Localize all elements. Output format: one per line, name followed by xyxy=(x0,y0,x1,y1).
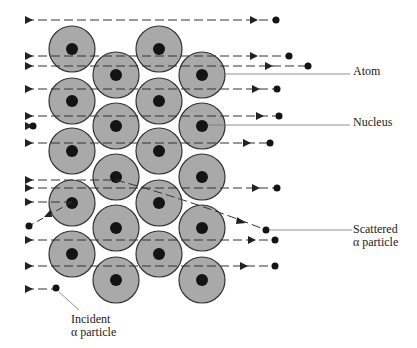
nucleus xyxy=(196,222,208,234)
arrowhead-icon xyxy=(265,62,273,70)
nucleus xyxy=(66,248,78,260)
atom-label: Atom xyxy=(353,64,380,78)
scattered-label-line2: α particle xyxy=(353,235,398,249)
alpha-particle xyxy=(267,140,274,147)
atom xyxy=(49,231,95,277)
incident-label-line1: Incident xyxy=(71,312,110,326)
nucleus xyxy=(196,171,208,183)
alpha-particle xyxy=(272,237,279,244)
alpha-particle xyxy=(272,263,279,270)
arrowhead-icon xyxy=(25,262,33,270)
nucleus xyxy=(196,120,208,132)
arrowhead-icon xyxy=(25,184,33,192)
nucleus xyxy=(196,69,208,81)
atom xyxy=(179,257,225,303)
nucleus xyxy=(66,197,78,209)
atom xyxy=(179,154,225,200)
alpha-path xyxy=(25,16,280,24)
arrowhead-icon xyxy=(25,139,33,147)
arrowhead-icon xyxy=(25,112,33,120)
atom xyxy=(49,180,95,226)
arrowhead-icon xyxy=(243,139,251,147)
alpha-particle xyxy=(274,185,281,192)
incident-label-line2: α particle xyxy=(71,325,116,339)
nucleus xyxy=(66,145,78,157)
atom xyxy=(93,257,139,303)
scattered-label-line1: Scattered xyxy=(353,222,398,236)
arrowhead-icon xyxy=(250,16,258,24)
nucleus xyxy=(153,248,165,260)
atom xyxy=(49,26,95,72)
arrowhead-icon xyxy=(240,262,248,270)
alpha-particle xyxy=(274,86,281,93)
atom xyxy=(136,78,182,124)
alpha-particle xyxy=(276,113,283,120)
atom xyxy=(179,103,225,149)
atom xyxy=(179,52,225,98)
atom xyxy=(93,52,139,98)
atom xyxy=(93,154,139,200)
incident-alpha-path xyxy=(25,285,60,294)
nucleus xyxy=(110,274,122,286)
nucleus xyxy=(66,95,78,107)
nucleus xyxy=(66,43,78,55)
nucleus xyxy=(153,197,165,209)
alpha-particle xyxy=(273,17,280,24)
arrowhead-icon xyxy=(25,85,33,93)
alpha-particle xyxy=(305,63,312,70)
atom xyxy=(136,26,182,72)
short-path xyxy=(25,122,37,130)
atom xyxy=(136,180,182,226)
arrowhead-icon xyxy=(252,184,260,192)
atom xyxy=(49,128,95,174)
atom-lattice xyxy=(49,26,225,303)
nucleus xyxy=(110,222,122,234)
alpha-particle xyxy=(286,53,293,60)
atom xyxy=(93,103,139,149)
arrowhead-icon xyxy=(25,236,33,244)
nucleus xyxy=(153,43,165,55)
atom xyxy=(49,78,95,124)
arrowhead-icon xyxy=(256,112,264,120)
arrowhead-icon xyxy=(252,85,260,93)
arrowhead-icon xyxy=(250,52,258,60)
atom xyxy=(93,205,139,251)
arrowhead-icon xyxy=(248,236,256,244)
nucleus-label: Nucleus xyxy=(353,115,392,129)
nucleus xyxy=(153,95,165,107)
nucleus xyxy=(153,145,165,157)
atom xyxy=(136,231,182,277)
nucleus xyxy=(110,69,122,81)
scattering-diagram xyxy=(0,0,417,348)
arrowhead-icon xyxy=(25,16,33,24)
arrowhead-icon xyxy=(25,52,33,60)
nucleus xyxy=(196,274,208,286)
atom xyxy=(136,128,182,174)
arrowhead-icon xyxy=(25,62,33,70)
nucleus xyxy=(110,120,122,132)
